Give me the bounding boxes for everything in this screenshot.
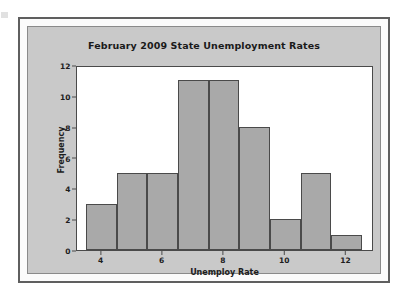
y-axis-tick-label: 2 xyxy=(65,216,76,225)
chart-figure-frame: February 2009 State Unemployment Rates F… xyxy=(18,17,390,283)
histogram-bar xyxy=(331,235,362,250)
histogram-bar xyxy=(239,127,270,250)
chart-title: February 2009 State Unemployment Rates xyxy=(28,40,380,51)
histogram-bar xyxy=(147,173,178,250)
scan-artifact xyxy=(1,12,8,18)
y-axis-tick-label: 6 xyxy=(65,154,76,163)
histogram-bar xyxy=(270,219,301,250)
y-axis-tick-label: 8 xyxy=(65,123,76,132)
x-axis-tick-label: 6 xyxy=(159,251,164,265)
x-axis-title: Unemploy Rate xyxy=(76,268,373,277)
y-axis-tick-label: 4 xyxy=(65,185,76,194)
histogram-bar xyxy=(117,173,148,250)
x-axis-tick-label: 12 xyxy=(340,251,350,265)
x-axis-tick-label: 4 xyxy=(98,251,103,265)
graph-panel: February 2009 State Unemployment Rates F… xyxy=(27,26,381,274)
x-axis-tick-label: 8 xyxy=(220,251,225,265)
x-axis-ticks: 4681012 xyxy=(76,251,373,267)
plot-area xyxy=(76,66,373,251)
y-axis-ticks: 024681012 xyxy=(28,27,76,273)
histogram-bar xyxy=(209,80,240,250)
histogram-bar xyxy=(301,173,332,250)
x-axis-tick-label: 10 xyxy=(279,251,289,265)
histogram-bar xyxy=(86,204,117,250)
histogram-bar xyxy=(178,80,209,250)
histogram-bars xyxy=(77,67,372,250)
y-axis-tick-label: 0 xyxy=(65,247,76,256)
y-axis-tick-label: 10 xyxy=(60,92,76,101)
y-axis-tick-label: 12 xyxy=(60,62,76,71)
